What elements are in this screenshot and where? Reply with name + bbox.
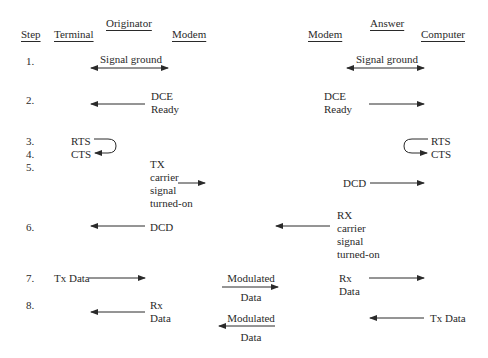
rts-cts-left-loop xyxy=(94,139,116,153)
rts-cts-right-loop xyxy=(404,139,428,153)
arrow-layer xyxy=(0,0,488,358)
